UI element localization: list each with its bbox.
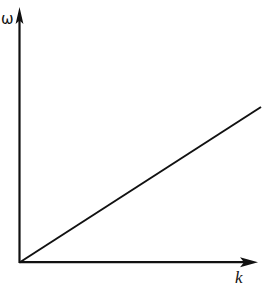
y-axis-label: ω	[1, 12, 14, 27]
plot-canvas	[0, 0, 268, 293]
dispersion-line-series	[20, 107, 262, 263]
x-axis-label: k	[235, 269, 243, 286]
dispersion-relation-figure: ω k	[0, 0, 268, 293]
